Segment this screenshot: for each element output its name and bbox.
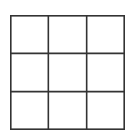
board-cell-r2-c3[interactable] <box>87 53 125 91</box>
board-cell-r2-c2[interactable] <box>48 53 86 91</box>
board-cell-r3-c3[interactable] <box>87 92 125 130</box>
board-cell-r1-c2[interactable] <box>48 15 86 53</box>
board-cell-r1-c3[interactable] <box>87 15 125 53</box>
board-cell-r1-c1[interactable] <box>10 15 48 53</box>
game-board <box>10 15 125 130</box>
board-cell-r3-c1[interactable] <box>10 92 48 130</box>
board-cell-r2-c1[interactable] <box>10 53 48 91</box>
board-grid <box>10 15 125 130</box>
board-cell-r3-c2[interactable] <box>48 92 86 130</box>
